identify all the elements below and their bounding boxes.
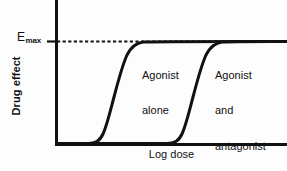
annotation-agonist-alone-line-2: alone xyxy=(142,105,179,117)
y-axis-label: Drug effect xyxy=(11,38,23,134)
emax-label-main: E xyxy=(17,30,25,44)
annotation-agonist-and-antagonist-line-1: Agonist xyxy=(215,70,266,82)
annotation-agonist-alone: Agonist alone xyxy=(142,46,179,141)
x-axis-label: Log dose xyxy=(56,149,287,161)
emax-label-subscript: max xyxy=(26,36,41,45)
emax-axis-label: Emax xyxy=(17,31,40,44)
annotation-agonist-and-antagonist-line-2: and xyxy=(215,105,266,117)
annotation-agonist-alone-line-1: Agonist xyxy=(142,70,179,82)
dose-response-figure: Drug effect Emax Agonist alone Agonist a… xyxy=(0,0,287,171)
